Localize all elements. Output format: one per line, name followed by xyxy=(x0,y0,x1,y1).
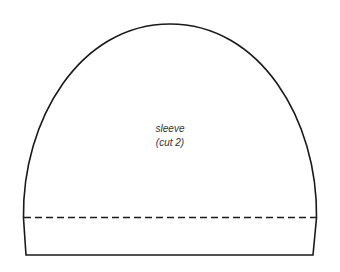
sleeve-pattern-piece xyxy=(0,0,340,272)
cut-instruction-label: (cut 2) xyxy=(120,137,220,149)
piece-name-label: sleeve xyxy=(120,123,220,135)
